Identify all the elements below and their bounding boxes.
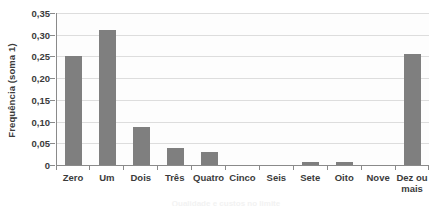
x-tick-label: Quatro xyxy=(192,170,226,200)
bar-slot xyxy=(328,13,362,165)
y-tick-mark xyxy=(50,122,55,123)
figure-caption: Qualidade e custos no limite xyxy=(56,199,396,206)
bar-slot xyxy=(158,13,192,165)
x-tick-label: Dois xyxy=(124,170,158,200)
bar xyxy=(133,127,150,165)
bar-slot xyxy=(91,13,125,165)
x-tick-label: Oito xyxy=(327,170,361,200)
y-tick-label: 0,35 xyxy=(18,8,50,19)
x-tick-label: Zero xyxy=(56,170,90,200)
y-axis-tick-labels: 00,050,100,150,200,250,300,35 xyxy=(18,13,50,165)
bar-slot xyxy=(226,13,260,165)
x-tick-label: Dez ou mais xyxy=(395,170,429,200)
y-tick-label: 0,30 xyxy=(18,29,50,40)
bar-chart-figure: Frequência (soma 1) 00,050,100,150,200,2… xyxy=(0,0,436,206)
y-axis-title-text: Frequência (soma 1) xyxy=(6,43,17,137)
y-tick-mark xyxy=(50,165,55,166)
bar xyxy=(404,54,421,165)
bar xyxy=(99,30,116,165)
x-tick-label: Sete xyxy=(293,170,327,200)
bars-series xyxy=(57,13,429,165)
x-tick-label: Seis xyxy=(259,170,293,200)
x-tick-label: Três xyxy=(158,170,192,200)
bar xyxy=(167,148,184,165)
x-axis-tick-labels: ZeroUmDoisTrêsQuatroCincoSeisSeteOitoNov… xyxy=(56,170,429,200)
bar xyxy=(302,162,319,165)
bar-slot xyxy=(125,13,159,165)
x-tick-label: Cinco xyxy=(226,170,260,200)
plot-area xyxy=(56,13,429,165)
bar-slot xyxy=(57,13,91,165)
x-tick-label: Um xyxy=(90,170,124,200)
bar xyxy=(65,56,82,165)
x-tick-label: Nove xyxy=(361,170,395,200)
y-tick-mark xyxy=(50,78,55,79)
y-tick-label: 0,20 xyxy=(18,73,50,84)
y-tick-mark xyxy=(50,143,55,144)
bar-slot xyxy=(260,13,294,165)
y-tick-label: 0,05 xyxy=(18,138,50,149)
bar-slot xyxy=(294,13,328,165)
y-tick-mark xyxy=(50,13,55,14)
y-tick-mark xyxy=(50,100,55,101)
y-tick-mark xyxy=(50,56,55,57)
y-tick-mark xyxy=(50,35,55,36)
y-tick-label: 0,10 xyxy=(18,116,50,127)
bar-slot xyxy=(361,13,395,165)
bar xyxy=(201,152,218,165)
bar-slot xyxy=(395,13,429,165)
y-tick-label: 0,25 xyxy=(18,51,50,62)
bar xyxy=(336,162,353,165)
bar-slot xyxy=(192,13,226,165)
y-tick-label: 0,15 xyxy=(18,94,50,105)
y-tick-label: 0 xyxy=(18,160,50,171)
